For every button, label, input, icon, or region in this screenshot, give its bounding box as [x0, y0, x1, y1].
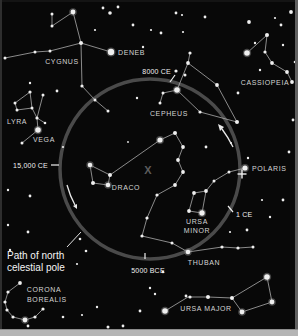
star [28, 90, 31, 93]
star [94, 99, 97, 102]
star [80, 84, 83, 87]
star [244, 50, 250, 56]
star [31, 107, 34, 110]
star [181, 170, 185, 174]
star [285, 70, 289, 74]
star [88, 163, 93, 168]
star [230, 296, 234, 300]
star [27, 231, 30, 234]
date-marker-label: 5000 BCE [131, 267, 165, 274]
star [34, 51, 37, 54]
star [274, 17, 276, 19]
star [154, 293, 156, 295]
star [290, 80, 294, 84]
frame-bottom-edge-line [0, 329, 298, 330]
star [237, 92, 240, 95]
star [188, 51, 191, 54]
star [206, 295, 210, 299]
star [56, 90, 59, 93]
label-corona-borealis: CORONA [27, 286, 61, 293]
label-draco: DRACO [112, 184, 140, 191]
star [11, 315, 14, 318]
star [220, 245, 223, 248]
star [228, 171, 231, 174]
frame-bottom-bar [0, 330, 298, 336]
star [155, 193, 158, 196]
star [175, 12, 178, 15]
star [186, 250, 191, 255]
star [236, 246, 239, 249]
star [96, 306, 98, 308]
star [252, 246, 255, 249]
star [247, 20, 251, 24]
star [263, 50, 266, 53]
frame-top [0, 0, 298, 2]
label-cepheus: CEPHEUS [150, 110, 188, 117]
star [174, 87, 180, 93]
star [142, 46, 144, 48]
star [173, 183, 177, 187]
date-marker-label: 1 CE [236, 211, 252, 218]
star [181, 145, 185, 149]
star [79, 238, 82, 241]
star [282, 199, 285, 202]
star [44, 122, 47, 125]
star [7, 189, 9, 191]
label-draco: THUBAN [188, 259, 220, 266]
star [16, 109, 19, 112]
star [185, 295, 188, 298]
star [289, 10, 293, 14]
star [108, 173, 112, 177]
star [205, 146, 208, 149]
star [259, 69, 261, 71]
star [171, 242, 174, 245]
date-marker-dot [174, 69, 177, 72]
star [246, 229, 249, 232]
star [240, 310, 245, 315]
circle-center-x-mark: X [144, 164, 152, 176]
star [184, 74, 187, 77]
star [6, 290, 9, 293]
star [7, 224, 9, 226]
star [149, 287, 151, 289]
star [127, 141, 129, 143]
label-corona-borealis: BOREALIS [27, 296, 67, 303]
star [292, 119, 295, 122]
star [14, 102, 17, 105]
label-cassiopeia: CASSIOPEIA [241, 79, 289, 86]
star [29, 195, 32, 198]
star [176, 158, 180, 162]
star [204, 189, 208, 193]
star [150, 29, 152, 31]
star [3, 300, 6, 303]
star [187, 209, 191, 213]
star [21, 142, 24, 145]
star [107, 110, 110, 113]
frame-left [0, 0, 2, 336]
star [51, 25, 54, 28]
label-ursa-minor: URSA [186, 218, 208, 225]
star [76, 263, 78, 265]
star [102, 7, 105, 10]
star [242, 165, 247, 170]
star [33, 315, 36, 318]
star [108, 11, 112, 15]
star [186, 61, 190, 65]
star [254, 42, 256, 44]
star [4, 57, 7, 60]
star [139, 310, 142, 313]
date-marker-label: 15,000 CE [13, 162, 48, 169]
star [5, 308, 8, 311]
star [270, 300, 275, 305]
star [117, 6, 120, 9]
caption-line-2: celestial pole [7, 262, 65, 273]
star [282, 44, 284, 46]
star [29, 82, 31, 84]
star [27, 325, 30, 328]
star [23, 318, 28, 323]
star [198, 110, 201, 113]
star [162, 308, 168, 314]
star [71, 10, 76, 15]
star [181, 14, 183, 16]
star [261, 199, 263, 201]
